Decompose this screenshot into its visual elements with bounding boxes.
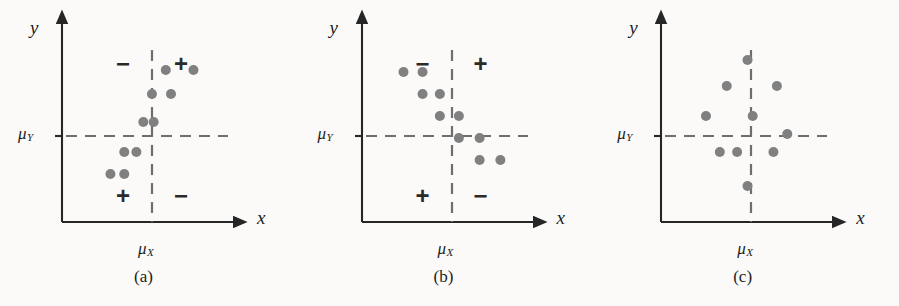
data-point	[417, 89, 427, 99]
data-point	[474, 155, 484, 165]
data-point	[782, 129, 792, 139]
x-axis-label: x	[557, 208, 565, 227]
quadrant-sign-top-left: −	[416, 52, 430, 76]
y-axis-label: y	[330, 18, 338, 37]
quadrant-sign-top-right: +	[474, 52, 488, 76]
mu-x-label: μX	[737, 240, 753, 258]
panel-plot-a	[0, 0, 300, 306]
data-point	[166, 89, 176, 99]
data-point	[743, 55, 753, 65]
y-axis-label: y	[30, 18, 38, 37]
mu-y-label: μY	[318, 125, 333, 143]
x-axis-label: x	[856, 208, 864, 227]
mu-x-label: μX	[438, 240, 454, 258]
data-point	[722, 81, 732, 91]
mu-y-subscript: Y	[327, 131, 333, 143]
mu-y-label: μY	[18, 125, 33, 143]
quadrant-sign-top-left: −	[116, 52, 130, 76]
data-point	[149, 117, 159, 127]
mu-x-label: μX	[138, 240, 154, 258]
scatter-panel-b: yxμYμX−++−(b)	[300, 0, 600, 306]
scatter-panel-a: yxμYμX−++−(a)	[0, 0, 300, 306]
data-point-group	[105, 65, 198, 179]
data-point	[105, 169, 115, 179]
mu-y-subscript: Y	[27, 131, 33, 143]
mu-x-subscript: X	[447, 246, 454, 258]
data-point	[161, 65, 171, 75]
quadrant-sign-bottom-right: −	[474, 184, 488, 208]
data-point	[147, 89, 157, 99]
correlation-scatter-figure: yxμYμX−++−(a)yxμYμX−++−(b)yxμYμX(c)	[0, 0, 899, 306]
scatter-panel-c: yxμYμX(c)	[599, 0, 899, 306]
data-point	[732, 147, 742, 157]
panel-caption: (c)	[733, 268, 752, 285]
mu-x-subscript: X	[147, 246, 154, 258]
quadrant-sign-bottom-right: −	[174, 184, 188, 208]
data-point	[743, 181, 753, 191]
data-point	[701, 111, 711, 121]
data-point	[131, 147, 141, 157]
mu-x-subscript: X	[746, 246, 753, 258]
quadrant-sign-top-right: +	[174, 52, 188, 76]
data-point	[495, 155, 505, 165]
data-point	[119, 169, 129, 179]
mu-y-label: μY	[617, 125, 632, 143]
data-point-group	[701, 55, 792, 191]
panel-plot-b	[300, 0, 600, 306]
data-point	[772, 81, 782, 91]
data-point	[715, 147, 725, 157]
data-point	[453, 111, 463, 121]
data-point	[434, 111, 444, 121]
x-axis-label: x	[257, 208, 265, 227]
panel-caption: (a)	[134, 268, 153, 285]
data-point	[119, 147, 129, 157]
data-point	[434, 89, 444, 99]
panel-caption: (b)	[434, 268, 454, 285]
y-axis-label: y	[629, 18, 637, 37]
data-point	[769, 147, 779, 157]
data-point	[474, 133, 484, 143]
mu-y-subscript: Y	[626, 131, 632, 143]
quadrant-sign-bottom-left: +	[416, 184, 430, 208]
data-point	[398, 67, 408, 77]
data-point	[138, 117, 148, 127]
data-point	[748, 111, 758, 121]
data-point	[453, 133, 463, 143]
quadrant-sign-bottom-left: +	[116, 184, 130, 208]
data-point	[188, 65, 198, 75]
panel-plot-c	[599, 0, 899, 306]
